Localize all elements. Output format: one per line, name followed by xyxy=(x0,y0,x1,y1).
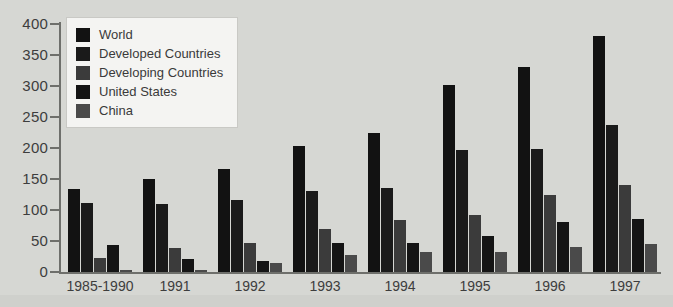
legend-item-label: United States xyxy=(99,84,177,99)
bar-group xyxy=(593,24,657,272)
bar xyxy=(518,67,530,272)
bar-group xyxy=(293,24,357,272)
bar xyxy=(632,219,644,272)
bar xyxy=(456,150,468,272)
bar xyxy=(443,85,455,272)
y-axis-tick-label: 50 xyxy=(4,232,48,249)
chart-legend: WorldDeveloped CountriesDeveloping Count… xyxy=(66,17,238,128)
bar xyxy=(107,245,119,272)
bar-group xyxy=(443,24,507,272)
bar xyxy=(68,189,80,272)
legend-swatch-icon xyxy=(76,28,90,42)
bar xyxy=(218,169,230,272)
bar-chart: 050100150200250300350400 1985-1990199119… xyxy=(0,0,673,307)
bar xyxy=(368,133,380,272)
x-axis-line xyxy=(59,272,661,274)
legend-item: China xyxy=(76,101,223,120)
y-axis-tick-label: 250 xyxy=(4,108,48,125)
bar xyxy=(94,258,106,272)
bar xyxy=(270,263,282,272)
x-axis-tick-label: 1996 xyxy=(534,278,565,294)
bar xyxy=(381,188,393,272)
bar xyxy=(495,252,507,272)
legend-item: United States xyxy=(76,82,223,101)
legend-swatch-icon xyxy=(76,104,90,118)
y-axis-labels: 050100150200250300350400 xyxy=(0,0,48,307)
bar xyxy=(306,191,318,272)
bar xyxy=(244,243,256,272)
bar xyxy=(469,215,481,272)
legend-item-label: Developed Countries xyxy=(99,46,220,61)
y-axis-tick-label: 0 xyxy=(4,263,48,280)
bar xyxy=(332,243,344,272)
bar xyxy=(394,220,406,272)
bar xyxy=(606,125,618,272)
bar xyxy=(169,248,181,272)
legend-item-label: Developing Countries xyxy=(99,65,223,80)
bar xyxy=(420,252,432,272)
bar xyxy=(482,236,494,272)
bar xyxy=(257,261,269,272)
legend-swatch-icon xyxy=(76,47,90,61)
legend-item: Developing Countries xyxy=(76,63,223,82)
x-axis-tick-label: 1992 xyxy=(234,278,265,294)
y-axis-tick-label: 400 xyxy=(4,15,48,32)
legend-item-label: China xyxy=(99,103,133,118)
bar xyxy=(345,255,357,272)
bar xyxy=(156,204,168,272)
y-axis-tick-label: 350 xyxy=(4,46,48,63)
legend-swatch-icon xyxy=(76,66,90,80)
x-axis-tick-label: 1997 xyxy=(609,278,640,294)
legend-swatch-icon xyxy=(76,85,90,99)
x-axis-tick-label: 1994 xyxy=(384,278,415,294)
y-axis-tick-label: 300 xyxy=(4,77,48,94)
bar xyxy=(531,149,543,272)
bar xyxy=(570,247,582,272)
x-axis-tick-label: 1995 xyxy=(459,278,490,294)
bar xyxy=(81,203,93,272)
y-axis-tick-label: 100 xyxy=(4,201,48,218)
x-axis-tick-label: 1985-1990 xyxy=(67,278,134,294)
bar xyxy=(557,222,569,272)
legend-item: Developed Countries xyxy=(76,44,223,63)
bar xyxy=(293,146,305,272)
x-axis-tick-label: 1991 xyxy=(159,278,190,294)
bar xyxy=(544,195,556,272)
bar xyxy=(195,270,207,272)
bar xyxy=(407,243,419,272)
bar-group xyxy=(518,24,582,272)
bar xyxy=(120,270,132,272)
legend-item: World xyxy=(76,25,223,44)
x-axis-tick-label: 1993 xyxy=(309,278,340,294)
y-axis-tick-label: 150 xyxy=(4,170,48,187)
bar xyxy=(231,200,243,272)
bar-group xyxy=(368,24,432,272)
bottom-strip xyxy=(0,295,673,307)
y-axis-tick-label: 200 xyxy=(4,139,48,156)
bar xyxy=(143,179,155,272)
bar xyxy=(319,229,331,272)
bar xyxy=(593,36,605,272)
legend-item-label: World xyxy=(99,27,133,42)
bar xyxy=(619,185,631,272)
bar xyxy=(645,244,657,272)
bar xyxy=(182,259,194,272)
